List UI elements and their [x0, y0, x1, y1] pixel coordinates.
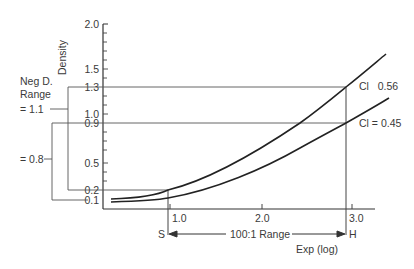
y-tick-1-5: 1.5	[84, 63, 99, 75]
x-axis-label: Exp (log)	[296, 243, 338, 255]
y-axis-label: Density	[56, 39, 68, 75]
y-tick-2-0: 2.0	[84, 18, 99, 30]
y-tick-0-5: 0.5	[84, 157, 99, 169]
neg-d-range-brackets	[44, 87, 68, 200]
curve-label-ci-0-56: Cl 0.56	[359, 80, 398, 92]
x-ticks	[170, 204, 352, 209]
curve-ci-0-45	[111, 98, 389, 202]
range-text: 100:1 Range	[230, 228, 290, 240]
y-minor-ticks	[103, 33, 108, 181]
x-tick-2-0: 2.0	[255, 212, 270, 224]
density-curve-chart: 2.0 1.5 1.3 1.0 0.9 0.5 0.2 0.1 Density …	[0, 0, 414, 269]
range-lower-value: = 0.8	[20, 153, 44, 165]
s-label: S	[158, 228, 165, 240]
neg-d-label-1: Neg D.	[20, 75, 53, 87]
range-upper-value: = 1.1	[20, 103, 44, 115]
x-tick-1-0: 1.0	[172, 212, 187, 224]
x-tick-3-0: 3.0	[349, 212, 364, 224]
curve-label-ci-0-45: Cl = 0.45	[359, 117, 401, 129]
curve-ci-0-56	[111, 54, 386, 199]
neg-d-label-2: Range	[20, 88, 51, 100]
h-label: H	[349, 228, 357, 240]
